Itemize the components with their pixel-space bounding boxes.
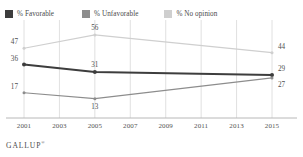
data-point-label: 27	[278, 81, 286, 89]
data-point-label: 17	[11, 83, 19, 91]
registered-mark: ®	[41, 140, 44, 145]
data-point[interactable]	[23, 91, 26, 94]
chart-legend: % Favorable % Unfavorable % No opinion	[5, 7, 300, 20]
x-axis-tick-label: 2001	[17, 122, 31, 130]
legend-item-label: % Unfavorable	[94, 10, 138, 18]
data-point-label: 31	[91, 61, 99, 69]
series-line	[24, 35, 272, 53]
data-point[interactable]	[271, 51, 274, 54]
square-swatch-icon	[164, 10, 172, 18]
x-axis-tick-label: 2007	[123, 122, 137, 130]
legend-item-label: % Favorable	[17, 10, 54, 18]
data-point[interactable]	[93, 70, 97, 74]
square-swatch-icon	[5, 10, 13, 18]
data-point-label: 13	[91, 103, 99, 111]
x-axis: 20012003200520072009201120132015	[0, 122, 303, 136]
line-chart-plot: 363129171327475644	[0, 20, 303, 124]
data-point[interactable]	[271, 76, 274, 79]
gallup-brand: GALLUP®	[6, 140, 45, 150]
brand-text: GALLUP	[6, 141, 41, 150]
x-axis-tick-label: 2015	[265, 122, 279, 130]
data-point[interactable]	[23, 47, 26, 50]
data-point-label: 44	[278, 43, 286, 51]
data-point[interactable]	[270, 73, 274, 77]
data-point[interactable]	[93, 97, 96, 100]
x-axis-tick-label: 2013	[229, 122, 243, 130]
clipped-header-rule	[0, 0, 303, 3]
legend-item-label: % No opinion	[176, 10, 217, 18]
x-axis-tick-label: 2011	[194, 122, 208, 130]
legend-item-unfavorable[interactable]: % Unfavorable	[82, 10, 138, 18]
x-axis-tick-label: 2003	[52, 122, 66, 130]
data-point[interactable]	[22, 63, 26, 67]
data-point-label: 29	[278, 65, 286, 73]
data-point-label: 56	[91, 24, 99, 32]
data-point[interactable]	[93, 33, 96, 36]
series-line	[24, 78, 272, 99]
legend-item-favorable[interactable]: % Favorable	[5, 10, 54, 18]
chart-canvas: 363129171327475644	[0, 20, 303, 124]
series-line	[24, 65, 272, 75]
data-point-label: 36	[11, 55, 19, 63]
legend-item-no-opinion[interactable]: % No opinion	[164, 10, 217, 18]
data-point-label: 47	[11, 38, 19, 46]
x-axis-tick-label: 2005	[88, 122, 102, 130]
square-swatch-icon	[82, 10, 90, 18]
x-axis-tick-label: 2009	[159, 122, 173, 130]
